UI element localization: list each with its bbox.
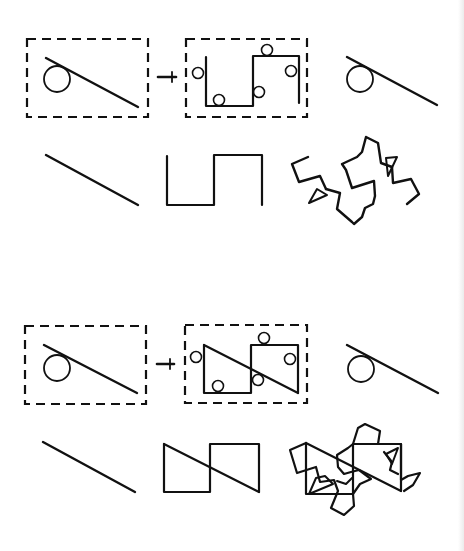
- bottom-source-box: [25, 326, 146, 404]
- top-square-wave: [167, 155, 262, 205]
- bottom-squares-with-diagonal: [164, 444, 259, 492]
- bottom-straight-line: [43, 442, 135, 492]
- bottom-output-circle-line: [347, 345, 438, 393]
- bottom-panel: [25, 325, 438, 515]
- top-transform-arrow-icon: [158, 72, 176, 82]
- bottom-rotated-squares-pattern: [290, 424, 420, 515]
- top-output-circle-line: [347, 57, 437, 105]
- top-source-box: [27, 39, 148, 117]
- diagram-canvas: [0, 0, 464, 551]
- bottom-result-box: [185, 325, 307, 403]
- top-straight-line: [46, 155, 138, 205]
- bottom-transform-arrow-icon: [157, 359, 174, 369]
- top-panel: [27, 39, 437, 224]
- top-result-box: [186, 39, 307, 117]
- top-rotated-wave-pattern: [292, 137, 419, 224]
